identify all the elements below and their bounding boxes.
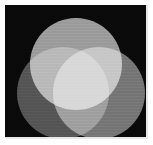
page-margin-right: [148, 0, 153, 145]
page-margin-bottom: [0, 139, 153, 145]
page-margin-top: [0, 0, 153, 5]
figure-root: [0, 0, 153, 145]
venn-circle-bottom-right: [53, 47, 145, 139]
diagram-panel: [5, 5, 148, 139]
page-margin-left: [0, 0, 5, 145]
